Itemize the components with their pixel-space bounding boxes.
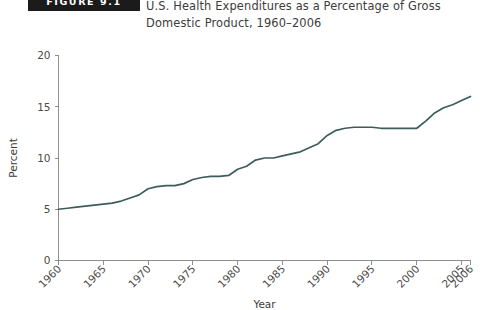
x-tick-label: 1970 — [126, 262, 153, 289]
y-tick-label: 20 — [37, 49, 50, 61]
x-tick-label: 2000 — [394, 262, 421, 289]
y-tick-label: 15 — [37, 101, 50, 113]
y-axis-title: Percent — [7, 138, 19, 178]
figure-number-badge: FIGURE 9.1 — [28, 0, 140, 11]
y-axis-ticks: 05101520 — [37, 49, 58, 266]
x-tick-label: 1960 — [36, 262, 63, 289]
figure-title-line-2: Domestic Product, 1960–2006 — [146, 15, 476, 32]
figure-title: U.S. Health Expenditures as a Percentage… — [146, 0, 476, 31]
x-tick-label: 1995 — [350, 262, 377, 289]
x-tick-label: 1980 — [215, 262, 242, 289]
x-tick-label: 1965 — [81, 262, 108, 289]
x-tick-label: 1975 — [170, 262, 197, 289]
figure-header: FIGURE 9.1 U.S. Health Expenditures as a… — [0, 0, 491, 40]
y-tick-label: 5 — [44, 203, 51, 215]
figure-title-line-1: U.S. Health Expenditures as a Percentage… — [146, 0, 476, 15]
y-tick-label: 10 — [37, 152, 50, 164]
y-tick-label: 0 — [44, 254, 51, 266]
x-tick-label: 1985 — [260, 262, 287, 289]
data-series-group — [59, 97, 471, 210]
data-line-series — [59, 97, 471, 210]
x-axis-title: Year — [252, 298, 276, 310]
chart-container: 05101520 1960196519701975198019851990199… — [0, 40, 491, 310]
x-tick-label: 1990 — [305, 262, 332, 289]
x-axis-ticks: 1960196519701975198019851990199520002005… — [36, 261, 476, 290]
line-chart: 05101520 1960196519701975198019851990199… — [0, 40, 491, 310]
x-tick-label: 2006 — [448, 262, 476, 290]
